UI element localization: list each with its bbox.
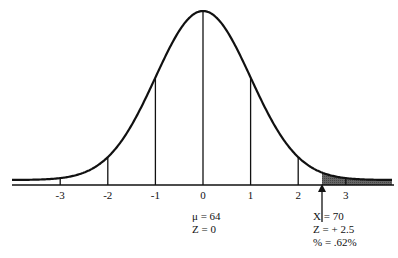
point-annotation: X = 70 Z = + 2.5 % = .62% <box>313 210 357 249</box>
x-tick-label: 1 <box>248 189 254 201</box>
x-tick-label: -2 <box>103 189 112 201</box>
x-tick-label: -3 <box>56 189 65 201</box>
point-percent: % = .62% <box>313 236 357 249</box>
x-tick-label: 3 <box>343 189 349 201</box>
x-tick-label: 2 <box>295 189 301 201</box>
point-z: Z = + 2.5 <box>313 223 357 236</box>
bell-curve <box>12 11 392 180</box>
x-tick-label: 0 <box>200 189 206 201</box>
mean-annotation: μ = 64 Z = 0 <box>192 210 221 236</box>
point-x: X = 70 <box>313 210 357 223</box>
mean-z: Z = 0 <box>192 223 221 236</box>
x-tick-label: -1 <box>151 189 160 201</box>
sd-lines <box>60 11 346 185</box>
mean-value: μ = 64 <box>192 210 221 223</box>
